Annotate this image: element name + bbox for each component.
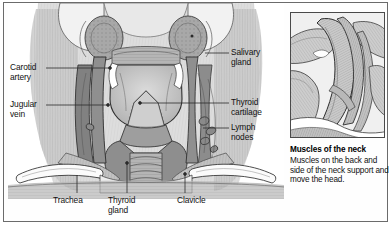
- label-thyroid-gland: Thyroid gland: [108, 196, 135, 215]
- label-trachea: Trachea: [53, 196, 83, 206]
- label-thyroid-cartilage: Thyroid cartilage: [231, 98, 262, 117]
- label-carotid-artery: Carotid artery: [10, 63, 36, 82]
- inset-caption: Muscles of the neck Muscles on the back …: [290, 145, 389, 185]
- label-lymph-nodes: Lymph nodes: [231, 123, 255, 142]
- caption-title: Muscles of the neck: [290, 145, 389, 155]
- caption-body: Muscles on the back and side of the neck…: [290, 156, 389, 185]
- label-clavicle: Clavicle: [177, 196, 206, 206]
- label-jugular-vein: Jugular vein: [10, 100, 37, 119]
- anatomy-figure: Muscles of the neck Muscles on the back …: [0, 0, 391, 231]
- label-salivary-gland: Salivary gland: [231, 48, 260, 67]
- muscles-inset-panel: [290, 12, 385, 138]
